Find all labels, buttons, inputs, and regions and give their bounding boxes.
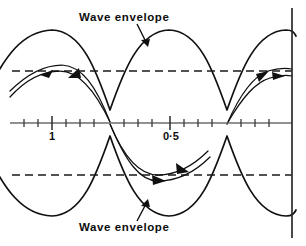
inner-curve-lower-middle-outer <box>110 124 208 175</box>
axis-tick-label-0-5: 0·5 <box>163 131 179 142</box>
horizontal-axis <box>10 116 292 130</box>
arrowhead-lower-middle-a <box>176 163 189 174</box>
wave-envelope-label-bottom: Wave envelope <box>79 222 169 234</box>
inner-curve-upper-left-inner <box>10 65 110 122</box>
arrowhead-upper-right-a <box>256 71 269 82</box>
wave-envelope-figure: Wave envelope Wave envelope 1 0·5 <box>0 0 306 246</box>
leader-arrow-bottom <box>137 199 150 221</box>
arrowhead-lower-middle-b <box>152 175 166 185</box>
wave-envelope-label-top: Wave envelope <box>79 12 169 24</box>
axis-tick-label-1: 1 <box>49 131 55 142</box>
arrowhead-upper-right-b <box>272 72 285 80</box>
figure-canvas <box>0 0 306 246</box>
